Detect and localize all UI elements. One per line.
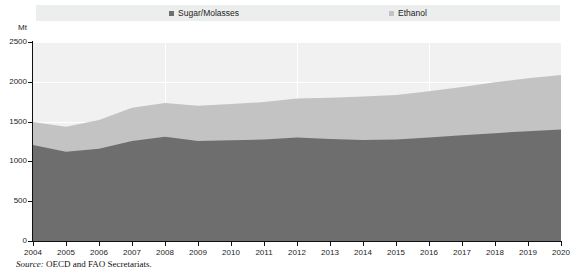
- x-axis-tick-label: 2005: [51, 248, 81, 257]
- x-axis-tick: [429, 242, 430, 246]
- x-axis-tick-label: 2018: [480, 248, 510, 257]
- x-axis-tick: [198, 242, 199, 246]
- y-axis-tick-label: 500: [1, 197, 27, 205]
- y-axis-labels: 05001000150020002500: [0, 0, 27, 274]
- x-axis-tick-label: 2020: [546, 248, 575, 257]
- stacked-area-series: [33, 42, 561, 241]
- y-axis-tick: [28, 42, 33, 43]
- y-axis-tick-label: 0: [1, 237, 27, 245]
- x-axis-tick: [495, 242, 496, 246]
- x-axis-tick: [33, 242, 34, 246]
- y-axis-tick: [28, 122, 33, 123]
- y-axis-tick-label: 2500: [1, 38, 27, 46]
- x-axis-tick-label: 2019: [513, 248, 543, 257]
- area-path-sugar-molasses: [33, 130, 561, 241]
- x-axis-tick-label: 2007: [117, 248, 147, 257]
- x-axis-tick-label: 2011: [249, 248, 279, 257]
- x-axis-tick: [330, 242, 331, 246]
- legend-label-sugar-molasses: Sugar/Molasses: [178, 8, 239, 18]
- x-axis-tick-label: 2015: [381, 248, 411, 257]
- x-axis-tick-label: 2012: [282, 248, 312, 257]
- x-axis-tick-label: 2009: [183, 248, 213, 257]
- x-axis-tick-label: 2017: [447, 248, 477, 257]
- y-axis-tick-label: 2000: [1, 78, 27, 86]
- x-axis-tick-label: 2004: [18, 248, 48, 257]
- gridline-vertical: [561, 42, 562, 241]
- x-axis-tick: [462, 242, 463, 246]
- x-axis-tick: [396, 242, 397, 246]
- y-axis-tick-label: 1500: [1, 118, 27, 126]
- x-axis-tick-label: 2013: [315, 248, 345, 257]
- x-axis-tick: [264, 242, 265, 246]
- source-prefix: Source:: [16, 259, 44, 269]
- x-axis-tick: [165, 242, 166, 246]
- square-swatch-icon: [389, 11, 394, 16]
- x-axis-tick: [363, 242, 364, 246]
- source-text: OECD and FAO Secretariats.: [46, 259, 152, 269]
- x-axis-tick-label: 2006: [84, 248, 114, 257]
- y-axis-tick: [28, 201, 33, 202]
- x-axis-tick: [297, 242, 298, 246]
- x-axis-tick: [99, 242, 100, 246]
- x-axis-tick-label: 2010: [216, 248, 246, 257]
- chart-legend: Sugar/Molasses Ethanol: [36, 5, 560, 21]
- square-swatch-icon: [169, 11, 174, 16]
- x-axis-tick: [231, 242, 232, 246]
- legend-label-ethanol: Ethanol: [398, 8, 427, 18]
- x-axis-tick: [132, 242, 133, 246]
- x-axis-tick-label: 2016: [414, 248, 444, 257]
- legend-entry-sugar-molasses: Sugar/Molasses: [169, 8, 239, 18]
- x-axis-tick: [66, 242, 67, 246]
- x-axis-tick-label: 2008: [150, 248, 180, 257]
- x-axis-tick: [561, 242, 562, 246]
- legend-entry-ethanol: Ethanol: [389, 8, 427, 18]
- y-axis-tick: [28, 82, 33, 83]
- y-axis-line: [32, 41, 33, 242]
- y-axis-tick: [28, 161, 33, 162]
- y-axis-tick-label: 1000: [1, 157, 27, 165]
- source-note: Source: OECD and FAO Secretariats.: [16, 259, 152, 269]
- x-axis-tick: [528, 242, 529, 246]
- x-axis-tick-label: 2014: [348, 248, 378, 257]
- plot-area: [33, 42, 561, 241]
